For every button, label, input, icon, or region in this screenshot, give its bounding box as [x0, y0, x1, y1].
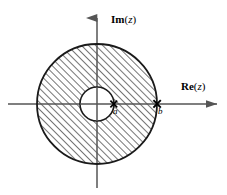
imaginary-axis-label: Im(z) — [111, 13, 136, 25]
point-label-a: a — [113, 106, 118, 116]
imaginary-axis-label-close-paren: ) — [132, 13, 136, 25]
real-axis-label: Re(z) — [181, 80, 205, 92]
complex-plane-annulus-figure: Im(z) Re(z) a b — [0, 0, 227, 195]
real-axis-label-close-paren: ) — [202, 80, 206, 92]
figure-canvas — [0, 0, 227, 195]
real-axis-label-function: Re — [181, 80, 194, 92]
point-label-b: b — [158, 106, 163, 116]
imaginary-axis-label-function: Im — [111, 13, 124, 25]
